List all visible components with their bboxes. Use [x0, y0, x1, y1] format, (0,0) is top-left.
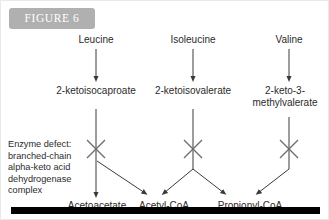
figure-container: FIGURE 6 Leucine Isoleucine Valine 2-ket…	[0, 0, 329, 220]
node-isoleucine: Isoleucine	[153, 34, 233, 46]
node-ketoisocaproate: 2-ketoisocaproate	[44, 85, 148, 97]
node-ketoisovalerate: 2-ketoisovalerate	[142, 85, 244, 97]
arrow-ketoisovalerate-to-acetyl-coa	[164, 169, 193, 193]
arrow-ketoisovalerate-to-propionyl-coa	[193, 169, 224, 193]
node-leucine: Leucine	[56, 34, 136, 46]
arrow-ketoisocaproate-to-acetyl-coa	[97, 161, 145, 193]
bottom-rule	[11, 207, 320, 214]
arrow-ketomethylvalerate-to-propionyl-coa	[258, 169, 289, 193]
node-ketomethylvalerate: 2-keto-3- methylvalerate	[241, 85, 329, 108]
figure-badge-label: FIGURE 6	[9, 8, 95, 29]
node-valine: Valine	[249, 34, 329, 46]
enzyme-defect-note: Enzyme defect: branched-chain alpha-keto…	[8, 139, 84, 197]
figure-badge: FIGURE 6	[9, 8, 95, 29]
